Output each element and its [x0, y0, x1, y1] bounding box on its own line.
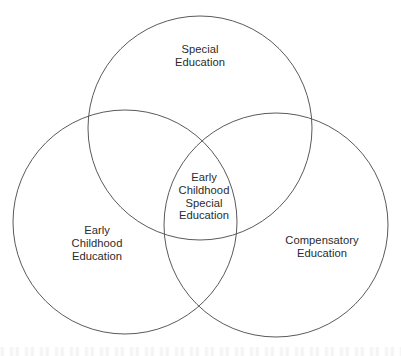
venn-circles-canvas — [0, 0, 401, 356]
circle-compensatory-education — [164, 113, 388, 337]
circle-early-childhood-education — [13, 110, 237, 334]
scan-artifact — [0, 347, 401, 356]
circle-special-education — [88, 16, 312, 240]
venn-diagram: Special Education Early Childhood Educat… — [0, 0, 401, 356]
